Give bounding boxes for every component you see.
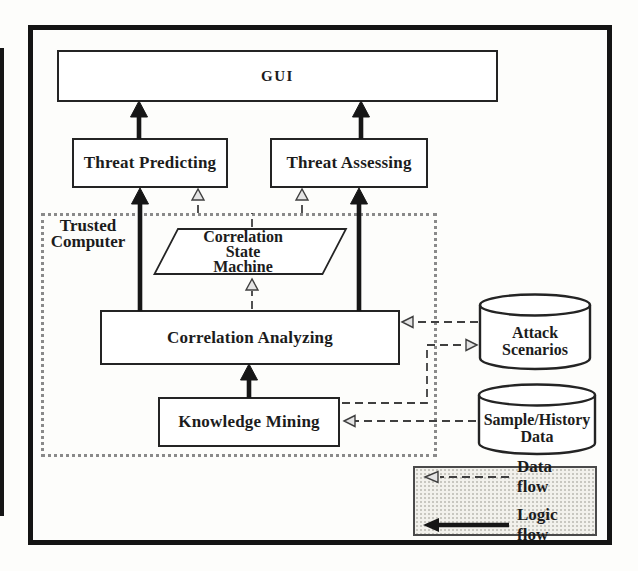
threat-predicting-label: Threat Predicting [84, 153, 217, 173]
gui-label: GUI [261, 68, 294, 85]
attack-scenarios-label: Attack Scenarios [478, 313, 592, 368]
legend-logic-flow-row: Logic flow [423, 505, 587, 545]
threat-predicting-box: Threat Predicting [72, 138, 228, 188]
sample-history-data-label: Sample/History Data [477, 403, 597, 453]
gui-box: GUI [57, 50, 498, 102]
knowledge-mining-box: Knowledge Mining [158, 397, 340, 447]
scan-gutter-shadow [0, 48, 4, 516]
scanned-figure-page: GUI Threat Predicting Threat Assessing T… [0, 0, 638, 571]
data-flow-label: Data flow [517, 457, 587, 497]
knowledge-mining-label: Knowledge Mining [178, 412, 320, 432]
data-flow-arrow-icon [423, 470, 511, 484]
correlation-state-machine-label: Correlation State Machine [168, 228, 318, 275]
attack-scenarios-cylinder: Attack Scenarios [478, 293, 592, 372]
legend-data-flow-row: Data flow [423, 457, 587, 497]
logic-flow-arrow-icon [423, 517, 511, 533]
legend-box: Data flow Logic flow [413, 466, 597, 536]
correlation-analyzing-label: Correlation Analyzing [167, 328, 333, 348]
threat-assessing-label: Threat Assessing [286, 153, 411, 173]
sample-history-data-cylinder: Sample/History Data [477, 383, 597, 457]
logic-flow-label: Logic flow [517, 505, 587, 545]
threat-assessing-box: Threat Assessing [270, 138, 428, 188]
trusted-computer-label: Trusted Computer [46, 218, 130, 250]
correlation-analyzing-box: Correlation Analyzing [100, 310, 400, 365]
